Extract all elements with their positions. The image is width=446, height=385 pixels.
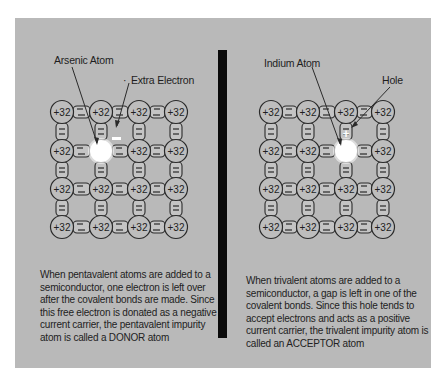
covalent-bond [377,123,389,140]
hole-plus-icon: + [342,127,349,141]
atom-charge: +32 [93,107,110,118]
impurity-atom [335,140,357,162]
covalent-bond [73,221,90,233]
covalent-bond [377,200,389,216]
atom-charge: +32 [300,184,317,195]
atom-charge: +32 [300,107,317,118]
atom-charge: +32 [168,107,185,118]
atom-charge: +32 [168,146,185,157]
atom-charge: +32 [375,107,392,118]
covalent-bond [265,162,277,178]
covalent-bond [112,145,128,157]
covalent-bond [302,162,314,178]
covalent-bond [282,145,297,157]
covalent-bond [56,123,68,140]
covalent-bond [357,183,372,195]
impurity-atom [90,140,112,162]
covalent-bond [357,221,372,233]
covalent-bond [319,145,335,157]
atom-charge: +32 [131,107,148,118]
atom-charge: +32 [263,222,280,233]
atom-charge: +32 [54,107,71,118]
extra-electron-pointer [117,83,129,126]
covalent-bond [150,221,165,233]
covalent-bond [73,145,90,157]
covalent-bond [302,123,314,140]
atom-charge: +32 [338,222,355,233]
covalent-bond [377,162,389,178]
atom-charge: +32 [338,184,355,195]
covalent-bond [340,162,352,178]
acceptor-caption: When trivalent atoms are added to a semi… [246,275,431,350]
covalent-bond [133,200,145,216]
atom-charge: +32 [300,222,317,233]
covalent-bond [150,145,165,157]
donor-caption: When pentavalent atoms are added to a se… [40,269,225,344]
atom-charge: +32 [131,184,148,195]
covalent-bond [282,221,297,233]
covalent-bond [56,200,68,216]
covalent-bond [112,221,128,233]
atom-charge: +32 [54,222,71,233]
atom-charge: +32 [131,146,148,157]
covalent-bond [265,123,277,140]
covalent-bond [340,200,352,216]
atom-charge: +32 [375,222,392,233]
covalent-bond [357,145,372,157]
covalent-bond [95,162,107,178]
arsenic-atom-label: Arsenic Atom [54,54,113,66]
covalent-bond [265,200,277,216]
covalent-bond [95,123,107,140]
atom-charge: +32 [131,222,148,233]
covalent-bond [133,123,145,140]
covalent-bond [170,200,182,216]
covalent-bond [170,123,182,140]
atom-charge: +32 [93,184,110,195]
extra-electron-label: Extra Electron [131,74,194,86]
covalent-bond [112,183,128,195]
acceptor-lattice: +32+32+32+32+32+32+32+32+32+32+32+32+32+… [260,101,395,239]
covalent-bond [73,106,90,118]
covalent-bond [302,200,314,216]
extra-electron-icon [112,137,121,140]
covalent-bond [319,221,335,233]
covalent-bond [95,200,107,216]
atom-charge: +32 [168,222,185,233]
atom-charge: +32 [168,184,185,195]
atom-charge: +32 [263,107,280,118]
covalent-bond [282,106,297,118]
hole-label: Hole [382,74,403,86]
covalent-bond [150,106,165,118]
atom-charge: +32 [54,184,71,195]
atom-charge: +32 [54,146,71,157]
covalent-bond [150,183,165,195]
covalent-bond [282,183,297,195]
atom-charge: +32 [375,146,392,157]
indium-atom-label: Indium Atom [264,57,320,69]
covalent-bond [170,162,182,178]
atom-charge: +32 [375,184,392,195]
extra-electron-dot: · [123,74,126,86]
atom-charge: +32 [300,146,317,157]
atom-charge: +32 [263,184,280,195]
covalent-bond [73,183,90,195]
covalent-bond [319,183,335,195]
covalent-bond [133,162,145,178]
atom-charge: +32 [263,146,280,157]
atom-charge: +32 [93,222,110,233]
atom-charge: +32 [338,107,355,118]
covalent-bond [56,162,68,178]
